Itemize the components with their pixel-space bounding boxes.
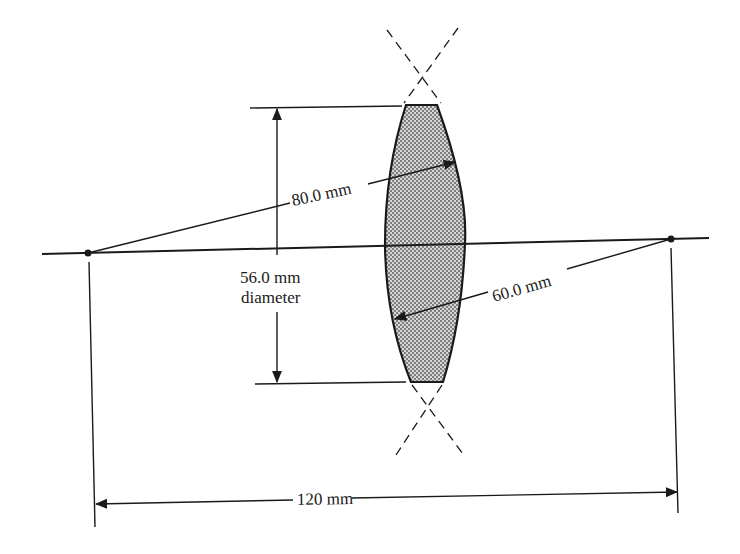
radius-80-label: 80.0 mm [290, 179, 353, 210]
thick-lens-diagram: 80.0 mm 60.0 mm 56.0 mm diameter 120 mm [0, 0, 740, 554]
diameter-word-label: diameter [241, 288, 301, 307]
radius-80-line-a [88, 203, 290, 253]
separation-label: 120 mm [297, 489, 354, 509]
separation-dimension-right [352, 492, 677, 498]
radius-60-line-a [567, 239, 671, 269]
separation-dimension-left [96, 500, 293, 504]
separation-extension-right [671, 248, 678, 513]
optical-axis [42, 238, 709, 254]
diameter-extension-bottom [255, 382, 406, 384]
diameter-extension-top [250, 106, 402, 108]
construction-lines-bottom [396, 385, 463, 455]
radius-60-label: 60.0 mm [490, 271, 553, 306]
construction-lines-top [387, 28, 458, 103]
separation-extension-left [89, 262, 95, 527]
diameter-value-label: 56.0 mm [240, 268, 300, 287]
